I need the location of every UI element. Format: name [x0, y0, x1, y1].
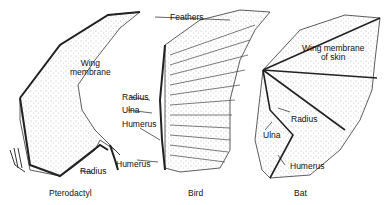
label-ptero-humerus: Humerus	[116, 160, 150, 169]
label-line-2: membrane	[70, 68, 111, 77]
label-bat-ulna: Ulna	[263, 131, 280, 140]
bat-wing	[255, 15, 380, 178]
label-bat-humerus: Humerus	[290, 162, 324, 171]
label-bird-radius: Radius	[122, 93, 148, 102]
label-bird-feathers: Feathers	[170, 13, 204, 22]
label-bird-ulna: Ulna	[122, 106, 139, 115]
label-bat-radius: Radius	[291, 115, 317, 124]
bird-wing	[160, 10, 270, 172]
label-line-2: of skin	[302, 53, 364, 62]
label-ptero-radius: Radius	[80, 167, 106, 176]
caption-bird: Bird	[188, 188, 203, 198]
wing-diagram	[0, 0, 392, 205]
label-bat-wing-membrane: Wing membrane of skin	[302, 44, 364, 61]
label-ptero-wing-membrane: Wing membrane	[70, 59, 111, 76]
caption-pterodactyl: Pterodactyl	[49, 188, 92, 198]
pterodactyl-wing	[10, 12, 140, 176]
label-bird-humerus: Humerus	[122, 120, 156, 129]
caption-bat: Bat	[294, 188, 307, 198]
